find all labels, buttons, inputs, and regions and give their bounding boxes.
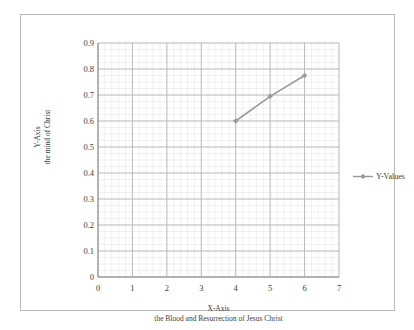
y-axis-tick-label: 0.8: [48, 65, 94, 74]
x-axis-tick-label: 3: [186, 284, 216, 293]
x-axis-tick-label: 7: [324, 284, 354, 293]
plot-area: [98, 43, 339, 277]
x-axis-title-secondary: the Blood and Resurrection of Jesus Chri…: [98, 314, 339, 324]
y-axis-tick-label: 0.5: [48, 143, 94, 152]
x-axis-tick-label: 0: [83, 284, 113, 293]
x-axis-title-primary: X-Axis: [98, 304, 339, 314]
y-axis-tick-label: 0.2: [48, 221, 94, 230]
y-axis-title-primary: Y-Axis: [33, 52, 43, 222]
y-axis-tick-label: 0.6: [48, 117, 94, 126]
y-axis-tick-label: 0.1: [48, 247, 94, 256]
legend: Y-Values: [352, 172, 405, 181]
y-axis-title-secondary: the mind of Christ: [43, 52, 53, 222]
y-axis-tick-label: 0.3: [48, 195, 94, 204]
legend-marker-icon: [352, 172, 374, 181]
x-axis-tick-label: 5: [255, 284, 285, 293]
x-axis-tick-label: 4: [221, 284, 251, 293]
y-axis-tick-label: 0.9: [48, 39, 94, 48]
y-axis-tick-labels: 00.10.20.30.40.50.60.70.80.9: [46, 43, 94, 277]
y-axis-tick-label: 0.7: [48, 91, 94, 100]
y-axis-tick-label: 0.4: [48, 169, 94, 178]
x-axis-tick-label: 1: [117, 284, 147, 293]
legend-item-label: Y-Values: [376, 172, 405, 181]
series-line-y-values: [98, 43, 339, 277]
x-axis-tick-labels: 01234567: [98, 284, 339, 296]
x-axis-title: X-Axis the Blood and Resurrection of Jes…: [98, 304, 339, 324]
x-axis-tick-label: 6: [290, 284, 320, 293]
y-axis-title: Y-Axis the mind of Christ: [33, 52, 53, 222]
chart-frame: 00.10.20.30.40.50.60.70.80.9 01234567 X-…: [20, 14, 395, 311]
y-axis-tick-label: 0: [48, 273, 94, 282]
x-axis-tick-label: 2: [152, 284, 182, 293]
